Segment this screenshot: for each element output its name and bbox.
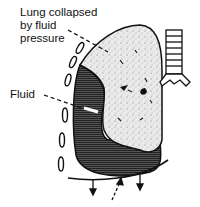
trachea (160, 30, 190, 86)
lung-label-line-1: Lung collapsed (20, 6, 100, 19)
lung-label-line-2: by fluid (20, 19, 100, 32)
fluid-label: Fluid (10, 88, 35, 101)
lung-collapsed-label: Lung collapsed by fluid pressure (20, 6, 100, 45)
lung-label-line-3: pressure (20, 32, 100, 45)
